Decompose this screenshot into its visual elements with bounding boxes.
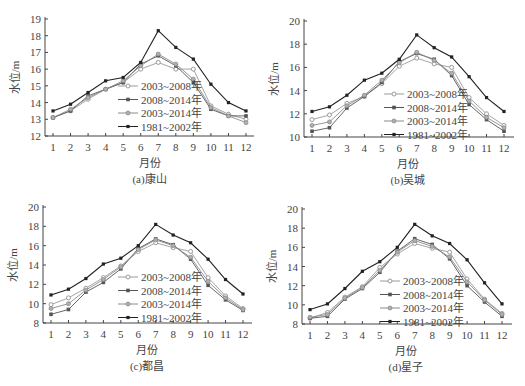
data-point-marker (84, 288, 88, 292)
x-tick-label: 12 (238, 328, 249, 340)
x-axis-label: 月份 (395, 345, 417, 357)
data-point-marker (500, 312, 504, 316)
x-tick-label: 9 (449, 142, 455, 154)
data-point-marker (136, 248, 140, 252)
y-tick-label: 12 (287, 280, 298, 292)
data-point-marker (49, 303, 53, 307)
data-point-marker (51, 109, 54, 112)
data-point-marker (206, 258, 209, 261)
data-point-marker (174, 62, 178, 66)
data-point-marker (392, 92, 396, 96)
data-point-marker (413, 223, 416, 226)
y-tick-label: 14 (28, 259, 40, 271)
data-point-marker (502, 110, 505, 113)
data-point-marker (448, 242, 451, 245)
data-point-marker (156, 60, 160, 64)
data-point-marker (226, 114, 230, 118)
data-point-marker (86, 91, 89, 94)
chart-caption: (c)都昌 (130, 360, 164, 373)
data-point-marker (448, 250, 452, 254)
x-tick-label: 2 (325, 329, 331, 341)
data-point-marker (157, 29, 160, 32)
data-point-marker (310, 110, 313, 113)
data-point-marker (380, 78, 384, 82)
legend-entry: 2003~2008年 (141, 270, 202, 283)
y-tick-label: 8 (293, 318, 299, 330)
data-point-marker (310, 129, 314, 133)
x-tick-label: 2 (66, 328, 72, 340)
x-tick-label: 5 (120, 141, 126, 153)
x-tick-label: 9 (447, 329, 453, 341)
data-point-marker (139, 61, 142, 64)
data-point-marker (51, 116, 55, 120)
x-tick-label: 10 (205, 141, 217, 153)
legend-entry: 1981~2002年 (141, 311, 202, 324)
data-point-marker (465, 284, 469, 288)
x-tick-label: 2 (327, 142, 333, 154)
data-point-marker (413, 239, 417, 243)
data-point-marker (450, 65, 454, 69)
data-point-marker (66, 296, 70, 300)
x-tick-label: 1 (48, 328, 54, 340)
data-point-marker (101, 278, 105, 282)
data-point-marker (392, 133, 395, 136)
x-tick-label: 4 (360, 329, 366, 341)
y-tick-label: 18 (30, 30, 42, 42)
y-tick-label: 14 (30, 97, 42, 109)
data-point-marker (398, 58, 401, 61)
line-chart-duchang: 8101214161820123456789101112水位/m月份(c)都昌2… (0, 193, 262, 386)
x-tick-label: 11 (223, 141, 234, 153)
legend-entry: 2008~2014年 (141, 284, 202, 297)
x-tick-label: 3 (344, 142, 350, 154)
data-point-marker (433, 46, 436, 49)
data-point-marker (397, 61, 401, 65)
y-tick-label: 18 (287, 222, 299, 234)
data-point-marker (102, 262, 105, 265)
y-tick-label: 18 (289, 38, 301, 50)
y-tick-label: 18 (28, 220, 40, 232)
data-point-marker (137, 244, 140, 247)
legend-entry: 1981~2002年 (407, 128, 468, 141)
x-axis-label: 月份 (139, 157, 161, 169)
data-point-marker (343, 296, 347, 300)
x-tick-label: 10 (464, 142, 476, 154)
data-point-marker (363, 79, 366, 82)
x-tick-label: 11 (481, 142, 492, 154)
data-point-marker (171, 244, 175, 248)
x-tick-label: 3 (85, 141, 91, 153)
chart-caption: (a)康山 (132, 172, 166, 186)
data-point-marker (69, 107, 73, 111)
x-tick-label: 3 (342, 329, 348, 341)
data-point-marker (310, 118, 314, 122)
x-tick-label: 8 (170, 328, 176, 340)
chart-panel-c: 8101214161820123456789101112水位/m月份(c)都昌2… (0, 193, 262, 386)
legend-entry: 2008~2014年 (403, 288, 464, 301)
x-tick-label: 10 (203, 328, 215, 340)
data-point-marker (67, 308, 71, 312)
y-tick-label: 12 (28, 278, 39, 290)
legend-entry: 2003~2008年 (407, 87, 468, 100)
data-point-marker (432, 58, 436, 62)
legend-entry: 2003~2014年 (403, 301, 464, 314)
chart-panel-a: 1213141516171819123456789101112水位/m月份(a)… (0, 0, 262, 193)
legend: 2003~2008年2008~2014年2003~2014年1981~2002年 (118, 79, 202, 133)
data-point-marker (392, 106, 396, 110)
x-tick-label: 9 (191, 141, 197, 153)
y-tick-label: 10 (289, 131, 301, 143)
data-point-marker (84, 277, 87, 280)
x-tick-label: 5 (118, 328, 124, 340)
chart-panel-b: 101214161820123456789101112水位/m月份(b)吴城20… (262, 0, 524, 193)
legend-entry: 2003~2014年 (141, 106, 202, 119)
data-point-marker (192, 58, 195, 61)
data-point-marker (244, 109, 247, 112)
y-tick-label: 16 (287, 241, 299, 253)
data-point-marker (119, 265, 123, 269)
y-tick-label: 20 (287, 203, 299, 215)
y-tick-label: 8 (34, 317, 40, 329)
data-point-marker (227, 101, 230, 104)
y-tick-label: 12 (289, 108, 300, 120)
x-tick-label: 8 (431, 142, 437, 154)
data-point-marker (388, 320, 391, 323)
y-tick-label: 14 (289, 85, 301, 97)
data-point-marker (191, 67, 195, 71)
